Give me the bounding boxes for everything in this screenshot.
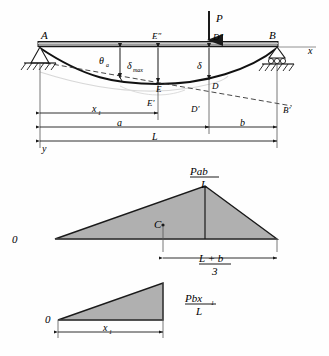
label-e-double-prime: E″	[151, 31, 161, 41]
svg-text:x: x	[91, 103, 97, 114]
label-load-p: P	[215, 12, 223, 24]
label-e: E	[155, 84, 162, 94]
svg-text:Pbx: Pbx	[184, 292, 202, 304]
moment-diagram-triangle	[55, 186, 277, 239]
partial-zero-label: 0	[45, 313, 51, 325]
label-support-b: B	[269, 29, 276, 41]
dimension-label-b: b	[240, 117, 245, 128]
label-axis-y: y	[41, 143, 47, 154]
label-d-double-prime: D″	[212, 32, 223, 42]
dimension-label-L: L	[151, 131, 158, 142]
partial-moment-triangle	[58, 283, 163, 320]
dimension-label-x1: x 1	[91, 103, 101, 116]
svg-text:θ: θ	[99, 55, 104, 66]
label-e-prime: E'	[146, 98, 155, 108]
moment-peak-denominator: L	[200, 178, 207, 190]
roller-support-rollers	[268, 58, 285, 63]
centroid-label: C	[154, 218, 162, 230]
pin-support-triangle	[31, 47, 49, 63]
dimension-label-a: a	[117, 117, 122, 128]
partial-peak-denominator: L	[195, 305, 202, 317]
label-theta-a: θ a	[99, 55, 109, 68]
svg-text:δ: δ	[127, 60, 132, 71]
label-delta-max: δ max	[127, 60, 143, 73]
svg-text:1: 1	[211, 300, 214, 306]
label-d: D	[211, 81, 219, 91]
roller-support-hatching	[259, 64, 294, 71]
ghost-curve-artifact	[40, 72, 228, 91]
svg-text:1: 1	[98, 110, 101, 116]
figure-canvas: A B P x y θ a δ max δ E″ D″ E E' D D' B'…	[0, 0, 329, 356]
label-support-a: A	[40, 29, 48, 41]
svg-text:1: 1	[109, 329, 112, 335]
svg-text:x: x	[102, 322, 108, 333]
moment-dimension-numerator: L + b	[198, 252, 224, 264]
moment-peak-numerator: Pab	[189, 165, 208, 177]
svg-text:max: max	[133, 67, 143, 73]
moment-zero-label: 0	[12, 233, 18, 245]
label-delta: δ	[197, 60, 202, 71]
moment-dimension-denominator: 3	[211, 265, 218, 277]
label-d-prime: D'	[190, 104, 200, 114]
label-axis-x: x	[307, 45, 313, 56]
tangent-line-at-a	[46, 63, 292, 106]
partial-dimension-label-x1: x 1	[102, 322, 112, 335]
svg-text:a: a	[106, 62, 109, 68]
label-b-prime: B'	[283, 105, 291, 115]
beam-deflection-figure: A B P x y θ a δ max δ E″ D″ E E' D D' B'…	[0, 0, 329, 356]
